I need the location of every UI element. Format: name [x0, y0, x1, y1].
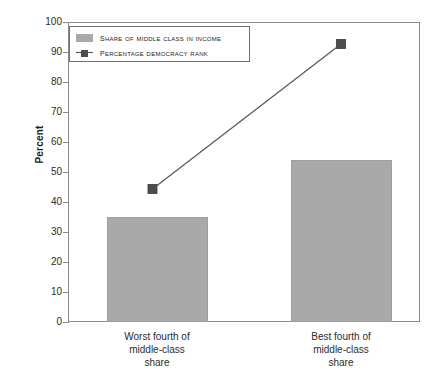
clipped-caption-remnant	[18, 372, 278, 379]
x-category-line: share	[266, 356, 416, 369]
legend-item-percentage-democracy-rank: Percentage democracy rank	[76, 45, 245, 60]
x-category-line: share	[82, 356, 232, 369]
x-category-line: Best fourth of	[266, 330, 416, 343]
y-tick-label-0: 0	[22, 317, 62, 327]
x-category-line: middle-class	[82, 343, 232, 356]
chart-legend: Share of middle class in income Percenta…	[69, 26, 250, 62]
democracy-rank-line	[153, 44, 342, 189]
legend-item-label: Share of middle class in income	[100, 32, 221, 43]
democracy-rank-marker-best	[337, 40, 346, 49]
line-series-layer	[68, 22, 420, 322]
x-category-line: middle-class	[266, 343, 416, 356]
legend-bar-swatch-icon	[76, 34, 93, 42]
y-tick-label-60: 60	[22, 137, 62, 147]
x-category-label-best-fourth: Best fourth of middle-class share	[266, 330, 416, 369]
y-tick-label-40: 40	[22, 197, 62, 207]
y-tick-label-10: 10	[22, 287, 62, 297]
y-tick-label-80: 80	[22, 77, 62, 87]
y-tick-label-30: 30	[22, 227, 62, 237]
chart-figure: Percent 100 90 80 70 60 50 40 30 20 10 0…	[0, 0, 448, 383]
x-category-label-worst-fourth: Worst fourth of middle-class share	[82, 330, 232, 369]
y-tick-label-50: 50	[22, 167, 62, 177]
democracy-rank-marker-worst	[148, 185, 157, 194]
y-tick-label-20: 20	[22, 257, 62, 267]
legend-item-share-of-middle-class-in-income: Share of middle class in income	[76, 30, 245, 45]
x-category-line: Worst fourth of	[82, 330, 232, 343]
legend-line-marker-swatch-icon	[76, 49, 93, 57]
y-tick-mark-0	[63, 322, 69, 323]
y-tick-label-70: 70	[22, 107, 62, 117]
legend-item-label: Percentage democracy rank	[100, 47, 208, 58]
y-tick-label-90: 90	[22, 47, 62, 57]
y-tick-label-100: 100	[22, 17, 62, 27]
